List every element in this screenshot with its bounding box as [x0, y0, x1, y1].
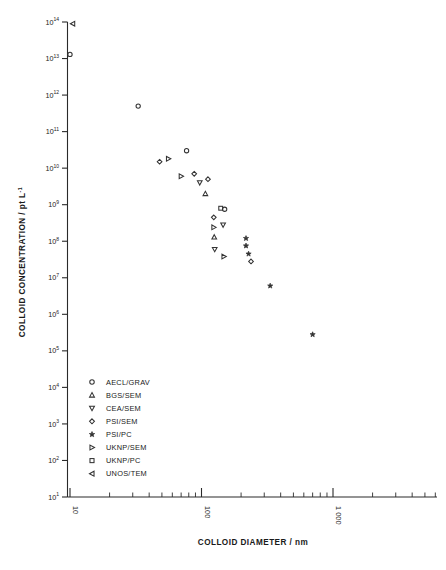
legend-label: PSI/SEM [106, 417, 138, 426]
legend-label: CEA/SEM [106, 404, 141, 413]
legend-label: PSI/PC [106, 430, 132, 439]
figure-background [0, 0, 446, 570]
legend-label: UKNP/PC [106, 456, 141, 465]
legend-label: UKNP/SEM [106, 443, 147, 452]
y-axis-title: COLLOID CONCENTRATION / pt L-1 [17, 187, 27, 338]
x-tick-label: 1 000 [334, 506, 343, 525]
x-tick-label: 100 [203, 506, 212, 518]
plot-canvas: 1011021031041051061071081091010101110121… [0, 0, 446, 570]
legend-label: BGS/SEM [106, 391, 141, 400]
legend-label: AECL/GRAV [106, 378, 150, 387]
x-tick-label: 10 [71, 506, 80, 514]
legend-label: UNOS/TEM [106, 469, 147, 478]
colloid-scatter-figure: 1011021031041051061071081091010101110121… [0, 0, 446, 570]
x-axis-title: COLLOID DIAMETER / nm [198, 538, 308, 547]
